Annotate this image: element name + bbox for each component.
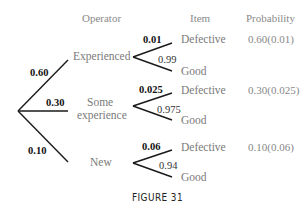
item-good-1: Good (181, 65, 207, 77)
good-prob-new: 0.94 (159, 160, 177, 171)
item-good-2: Good (181, 114, 207, 126)
operator-new: New (90, 156, 112, 168)
item-defective-2: Defective (181, 84, 226, 96)
item-defective-3: Defective (181, 141, 226, 153)
header-operator: Operator (82, 12, 121, 24)
result-prob-3: 0.10(0.06) (248, 141, 294, 153)
operator-experience: experience (77, 109, 127, 121)
figure-caption: FIGURE 31 (132, 191, 183, 203)
defective-prob-experienced: 0.01 (143, 34, 161, 45)
operator-some: Some (87, 96, 113, 108)
probability-tree-figure: Operator Item Probability 0.60 0.30 0.10… (0, 0, 306, 212)
defective-prob-new: 0.06 (142, 141, 160, 152)
defective-prob-some: 0.025 (139, 84, 163, 95)
item-defective-1: Defective (181, 33, 226, 45)
good-prob-experienced: 0.99 (158, 54, 176, 65)
result-prob-1: 0.60(0.01) (248, 33, 294, 45)
result-prob-2: 0.30(0.025) (248, 84, 299, 96)
operator-experienced: Experienced (73, 50, 130, 62)
branch-prob-experienced: 0.60 (30, 67, 48, 78)
item-good-3: Good (181, 171, 207, 183)
good-prob-some: 0.975 (157, 104, 181, 115)
header-probability: Probability (246, 12, 295, 24)
branch-prob-some-experience: 0.30 (46, 97, 64, 108)
header-item: Item (190, 12, 210, 24)
branch-prob-new: 0.10 (28, 145, 46, 156)
